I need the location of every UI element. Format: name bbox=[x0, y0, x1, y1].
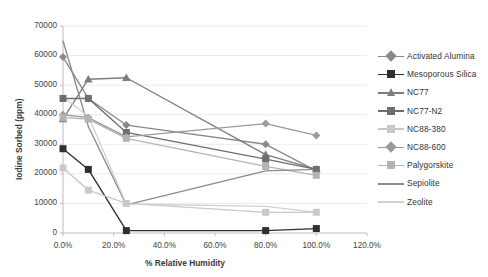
legend-square-marker bbox=[387, 161, 395, 169]
legend-square-marker bbox=[387, 70, 395, 78]
legend-key-icon bbox=[378, 176, 404, 190]
y-axis-tick-label: 70000 bbox=[11, 21, 57, 30]
data-point-marker bbox=[85, 166, 92, 173]
legend-item-label: Activated Alumina bbox=[407, 51, 475, 61]
data-point-marker bbox=[262, 120, 270, 128]
legend-key-icon bbox=[378, 140, 404, 154]
legend-item-label: Mesoporous Silica bbox=[407, 69, 477, 79]
legend-key-icon bbox=[378, 49, 404, 63]
data-point-marker bbox=[262, 227, 269, 234]
legend-item-mesoporous-silica[interactable]: Mesoporous Silica bbox=[378, 65, 488, 83]
x-axis-tick-label: 120.0% bbox=[345, 241, 389, 250]
y-axis-tick-label: 0 bbox=[11, 228, 57, 237]
legend-key-icon bbox=[378, 85, 404, 99]
legend-key-icon bbox=[378, 122, 404, 136]
x-axis-title: % Relative Humidity bbox=[35, 258, 335, 268]
data-point-marker bbox=[262, 156, 269, 163]
data-point-marker bbox=[262, 140, 270, 148]
chart-container: 010000200003000040000500006000070000 0.0… bbox=[0, 0, 488, 277]
data-point-marker bbox=[85, 187, 92, 194]
y-axis-tick-label: 60000 bbox=[11, 50, 57, 59]
data-point-marker bbox=[59, 53, 67, 61]
data-point-marker bbox=[262, 209, 269, 216]
y-axis-title: Iodine Sorbed (ppm) bbox=[14, 99, 24, 180]
legend-key-icon bbox=[378, 104, 404, 118]
x-axis-tick-label: 100.0% bbox=[294, 241, 338, 250]
legend-item-label: NC88-600 bbox=[407, 142, 446, 152]
chart-legend: Activated AluminaMesoporous SilicaNC77NC… bbox=[378, 47, 488, 211]
data-point-marker bbox=[122, 121, 130, 129]
data-point-marker bbox=[313, 172, 320, 179]
legend-key-icon bbox=[378, 67, 404, 81]
data-point-marker bbox=[313, 209, 320, 216]
data-point-marker bbox=[313, 225, 320, 232]
x-axis-tick-label: 60.0% bbox=[193, 241, 237, 250]
legend-item-label: Sepiolite bbox=[407, 178, 440, 188]
x-axis-tick-label: 0.0% bbox=[41, 241, 85, 250]
legend-item-activated-alumina[interactable]: Activated Alumina bbox=[378, 47, 488, 65]
legend-item-nc88-380[interactable]: NC88-380 bbox=[378, 120, 488, 138]
data-point-marker bbox=[123, 135, 130, 142]
legend-item-palygorskite[interactable]: Palygorskite bbox=[378, 156, 488, 174]
legend-item-nc77-n2[interactable]: NC77-N2 bbox=[378, 102, 488, 120]
data-point-marker bbox=[85, 95, 92, 102]
x-axis-tick-label: 40.0% bbox=[142, 241, 186, 250]
data-point-marker bbox=[60, 95, 67, 102]
legend-item-label: Palygorskite bbox=[407, 160, 453, 170]
y-axis-tick-label: 10000 bbox=[11, 198, 57, 207]
data-point-marker bbox=[60, 114, 67, 121]
legend-item-zeolite[interactable]: Zeolite bbox=[378, 193, 488, 211]
data-point-marker bbox=[85, 116, 92, 123]
legend-line-swatch bbox=[378, 201, 404, 203]
data-point-marker bbox=[60, 164, 67, 171]
legend-key-icon bbox=[378, 195, 404, 209]
legend-diamond-marker bbox=[385, 50, 396, 61]
data-point-marker bbox=[60, 145, 67, 152]
legend-square-marker bbox=[387, 125, 395, 133]
data-point-marker bbox=[123, 200, 130, 207]
legend-item-nc88-600[interactable]: NC88-600 bbox=[378, 138, 488, 156]
data-point-marker bbox=[312, 131, 320, 139]
legend-item-label: NC88-380 bbox=[407, 124, 446, 134]
legend-key-icon bbox=[378, 158, 404, 172]
legend-item-label: NC77-N2 bbox=[407, 106, 442, 116]
y-axis-tick-label: 50000 bbox=[11, 80, 57, 89]
series-line bbox=[63, 41, 316, 205]
x-axis-tick-label: 80.0% bbox=[244, 241, 288, 250]
legend-item-label: Zeolite bbox=[407, 197, 433, 207]
legend-triangle-marker bbox=[387, 88, 395, 96]
x-axis-tick-label: 20.0% bbox=[92, 241, 136, 250]
legend-item-label: NC77 bbox=[407, 87, 429, 97]
legend-line-swatch bbox=[378, 183, 404, 185]
data-point-marker bbox=[262, 163, 269, 170]
legend-item-sepiolite[interactable]: Sepiolite bbox=[378, 174, 488, 192]
series-sepiolite bbox=[63, 41, 316, 205]
data-point-marker bbox=[123, 227, 130, 234]
legend-item-nc77[interactable]: NC77 bbox=[378, 83, 488, 101]
legend-square-marker bbox=[387, 107, 395, 115]
legend-diamond-marker bbox=[385, 141, 396, 152]
